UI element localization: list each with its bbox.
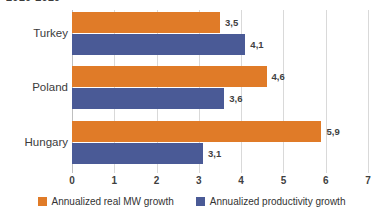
x-axis: 01234567 [72,173,368,189]
legend-label-series-prod: Annualized productivity growth [210,196,346,207]
x-tick-label-2: 2 [154,175,160,186]
bar-group-poland: 4,63,6 [72,66,368,110]
category-label-poland: Poland [2,81,68,93]
bar-hungary-series-mw[interactable] [72,121,321,142]
legend-item-series-prod[interactable]: Annualized productivity growth [196,196,346,207]
legend-swatch-series-mw [38,197,47,206]
legend-swatch-series-prod [196,197,205,206]
x-tick-label-5: 5 [281,175,287,186]
bar-group-turkey: 3,54,1 [72,12,368,56]
x-tick-label-1: 1 [112,175,118,186]
bar-value-poland-series-mw: 4,6 [272,66,285,87]
x-tick-label-3: 3 [196,175,202,186]
bar-poland-series-prod[interactable] [72,88,224,109]
bar-group-hungary: 5,93,1 [72,121,368,165]
category-label-hungary: Hungary [2,136,68,148]
bar-hungary-series-prod[interactable] [72,143,203,164]
chart-legend: Annualized real MW growthAnnualized prod… [0,196,383,207]
bar-turkey-series-prod[interactable] [72,34,245,55]
category-axis: TurkeyPolandHungary [0,10,68,173]
bar-poland-series-mw[interactable] [72,66,267,87]
plot-area: 3,54,14,63,65,93,1 [72,10,368,173]
x-tick-label-4: 4 [238,175,244,186]
bar-value-poland-series-prod: 3,6 [229,88,242,109]
x-tick-label-7: 7 [365,175,371,186]
legend-item-series-mw[interactable]: Annualized real MW growth [38,196,174,207]
chart-title: 2010-2019 [6,0,60,3]
category-label-turkey: Turkey [2,27,68,39]
x-tick-label-0: 0 [69,175,75,186]
bar-value-hungary-series-prod: 3,1 [208,143,221,164]
x-tick-label-6: 6 [323,175,329,186]
gridline-7 [368,10,369,173]
bar-value-hungary-series-mw: 5,9 [326,121,339,142]
bar-turkey-series-mw[interactable] [72,12,220,33]
bar-chart: 2010-2019 TurkeyPolandHungary 3,54,14,63… [0,0,383,210]
bar-value-turkey-series-prod: 4,1 [250,34,263,55]
bar-value-turkey-series-mw: 3,5 [225,12,238,33]
legend-label-series-mw: Annualized real MW growth [52,196,174,207]
